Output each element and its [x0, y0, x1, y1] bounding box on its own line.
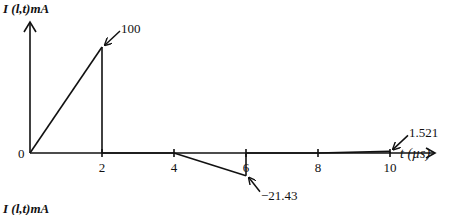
- x-tick-label: 10: [384, 160, 397, 175]
- x-tick-label: 8: [315, 160, 322, 175]
- current-vs-time-chart: I (l,t)mA t (µs) 0 246810 100−21.431.521…: [0, 0, 456, 215]
- annotation-label: −21.43: [261, 188, 298, 203]
- series-segment: [30, 47, 102, 153]
- annotations: 100−21.431.521: [105, 21, 438, 203]
- annotation-arrow: [249, 178, 260, 192]
- annotation-label: 1.521: [409, 125, 438, 140]
- x-tick-label: 2: [99, 160, 106, 175]
- series-segment: [174, 153, 246, 176]
- next-panel-y-axis-label: I (l,t)mA: [2, 201, 50, 215]
- origin-label: 0: [18, 146, 25, 161]
- annotation-label: 100: [121, 21, 141, 36]
- annotation-arrow: [105, 31, 120, 45]
- x-axis-label: t (µs): [400, 146, 431, 162]
- x-tick-label: 4: [171, 160, 178, 175]
- y-axis-label: I (l,t)mA: [2, 1, 50, 16]
- series-lines: [30, 47, 390, 176]
